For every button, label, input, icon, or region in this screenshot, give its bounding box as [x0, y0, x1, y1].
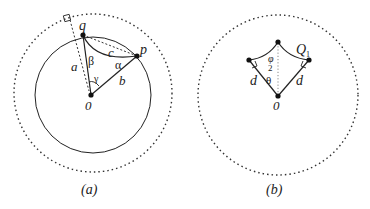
geodesic-arc-left — [249, 42, 278, 60]
label-d-right: d — [296, 73, 304, 88]
label-origin-b: 0 — [273, 98, 280, 113]
panel-a: q p c a β α γ b 0 (a) — [14, 14, 172, 198]
label-theta: θ — [266, 74, 271, 86]
point-origin-a — [88, 92, 93, 97]
label-gamma: γ — [93, 73, 99, 84]
label-Q1: Q — [296, 42, 306, 57]
label-p: p — [139, 42, 147, 57]
label-a: a — [71, 59, 78, 74]
label-b: b — [119, 73, 126, 88]
label-beta: β — [88, 54, 94, 68]
label-q: q — [79, 18, 86, 33]
label-phi-denominator: 2 — [268, 63, 273, 73]
point-p — [134, 53, 139, 58]
diagram-canvas: q p c a β α γ b 0 (a) Q 1 φ 2 θ d d — [0, 0, 370, 209]
label-c: c — [108, 45, 114, 60]
caption-b: (b) — [266, 182, 283, 198]
point-top — [275, 39, 280, 44]
label-Q1-subscript: 1 — [306, 50, 310, 59]
caption-a: (a) — [81, 182, 98, 198]
label-alpha: α — [115, 58, 122, 72]
point-q — [80, 32, 85, 37]
side-d-right — [278, 60, 309, 96]
point-left — [246, 57, 251, 62]
label-origin-a: 0 — [85, 98, 92, 113]
panel-b: Q 1 φ 2 θ d d 0 (b) — [198, 15, 358, 198]
label-d-left: d — [250, 73, 258, 88]
